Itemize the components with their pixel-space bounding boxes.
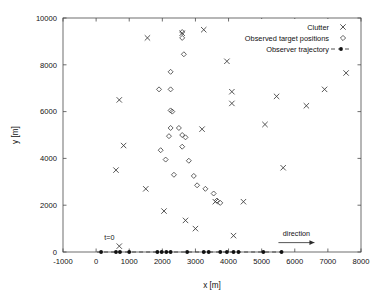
target-marker	[176, 125, 181, 130]
target-marker	[180, 35, 185, 40]
target-marker	[166, 134, 171, 139]
clutter-points	[113, 27, 349, 249]
clutter-marker	[229, 89, 234, 94]
trajectory-dot	[118, 250, 122, 254]
direction-label: direction	[283, 229, 310, 238]
clutter-marker	[201, 27, 206, 32]
x-axis-label: x [m]	[203, 281, 221, 290]
y-tick-label: 4000	[40, 154, 57, 163]
legend-trajectory-dot	[339, 47, 343, 51]
trajectory-dot	[164, 250, 168, 254]
target-marker	[180, 144, 185, 149]
target-marker	[168, 125, 173, 130]
clutter-marker	[241, 199, 246, 204]
target-marker	[171, 172, 176, 177]
trajectory-dot	[127, 250, 131, 254]
trajectory-dot	[114, 250, 118, 254]
x-tick-label: 2000	[154, 257, 171, 266]
trajectory-dot	[280, 250, 284, 254]
clutter-marker	[280, 165, 285, 170]
target-marker	[211, 191, 216, 196]
chart-legend: ClutterObserved target positionsObserver…	[236, 19, 358, 57]
x-tick-label: 8000	[353, 257, 370, 266]
target-marker	[158, 148, 163, 153]
legend-label: Observer trajectory	[266, 45, 329, 54]
clutter-marker	[183, 218, 188, 223]
x-tick-label: 6000	[286, 257, 303, 266]
clutter-marker	[145, 35, 150, 40]
direction-arrow-head	[309, 240, 314, 245]
target-marker	[181, 52, 186, 57]
x-tick-labels: -1000010002000300040005000600070008000	[53, 257, 369, 266]
clutter-marker	[121, 143, 126, 148]
target-marker	[186, 158, 191, 163]
target-marker	[168, 69, 173, 74]
clutter-marker	[199, 126, 204, 131]
target-marker	[203, 186, 208, 191]
clutter-marker	[117, 243, 122, 248]
scatter-chart-figure: -1000010002000300040005000600070008000 0…	[0, 0, 382, 304]
legend-label: Clutter	[307, 23, 329, 32]
y-tick-label: 10000	[36, 14, 57, 23]
target-marker	[157, 87, 162, 92]
clutter-marker	[161, 208, 166, 213]
trajectory-dot	[202, 250, 206, 254]
target-marker	[163, 157, 168, 162]
clutter-marker	[193, 226, 198, 231]
y-tick-labels: 0200040006000800010000	[36, 14, 57, 257]
clutter-marker	[113, 167, 118, 172]
y-tick-label: 8000	[40, 61, 57, 70]
trajectory-dot	[99, 250, 103, 254]
clutter-marker	[304, 103, 309, 108]
clutter-marker	[231, 233, 236, 238]
trajectory-dot	[207, 250, 211, 254]
y-tick-label: 6000	[40, 107, 57, 116]
t-zero-label: t=0	[104, 233, 114, 242]
x-tick-label: 0	[94, 257, 98, 266]
clutter-marker	[343, 70, 348, 75]
x-tick-label: 7000	[319, 257, 336, 266]
clutter-marker	[274, 94, 279, 99]
trajectory-dot	[155, 250, 159, 254]
target-marker	[195, 183, 200, 188]
clutter-marker	[262, 122, 267, 127]
y-axis-label: y [m]	[11, 126, 20, 144]
x-tick-label: 4000	[220, 257, 237, 266]
trajectory-dot	[232, 250, 236, 254]
clutter-marker	[322, 87, 327, 92]
x-tick-label: 1000	[121, 257, 138, 266]
chart-annotations: t=0direction	[104, 229, 314, 245]
trajectory-dot	[261, 250, 265, 254]
clutter-marker	[143, 186, 148, 191]
x-tick-label: -1000	[53, 257, 72, 266]
clutter-marker	[229, 101, 234, 106]
trajectory-dot	[225, 250, 229, 254]
target-marker	[168, 87, 173, 92]
y-tick-label: 0	[53, 248, 57, 257]
trajectory-dot	[169, 250, 173, 254]
trajectory-dot	[160, 250, 164, 254]
y-tick-label: 2000	[40, 201, 57, 210]
observed-target-points	[157, 30, 223, 206]
clutter-marker	[117, 97, 122, 102]
trajectory-dot	[218, 250, 222, 254]
x-tick-label: 3000	[187, 257, 204, 266]
clutter-marker	[224, 59, 229, 64]
legend-label: Observed target positions	[245, 34, 330, 43]
target-marker	[191, 173, 196, 178]
x-tick-label: 5000	[253, 257, 270, 266]
trajectory-dot	[185, 250, 189, 254]
trajectory-dot	[237, 250, 241, 254]
chart-canvas: -1000010002000300040005000600070008000 0…	[0, 0, 382, 304]
